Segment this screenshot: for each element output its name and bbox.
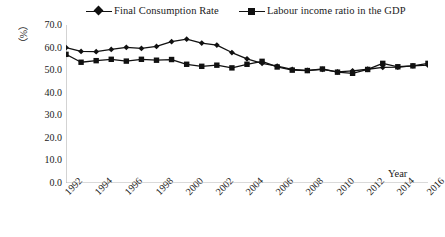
chart-figure: Final Consumption Rate Labour income rat… — [0, 0, 445, 237]
plot-area — [66, 25, 428, 183]
x-axis-tick-label: 2016 — [425, 176, 445, 197]
series-diamond — [66, 36, 428, 75]
chart-canvas — [66, 25, 428, 183]
series-square — [66, 52, 428, 76]
